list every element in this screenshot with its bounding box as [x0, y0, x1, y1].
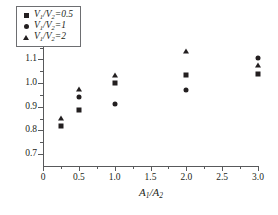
- x-tick-label: 2.5: [216, 173, 228, 183]
- x-tick-major: [151, 166, 152, 171]
- y-tick-label: 0.8: [25, 126, 37, 136]
- x-tick-minor: [204, 166, 205, 169]
- x-tick-major: [222, 166, 223, 171]
- data-point-square: [76, 108, 81, 113]
- y-tick-major: [38, 130, 43, 131]
- data-point-square: [112, 81, 117, 86]
- x-axis-title-a1: A: [139, 186, 146, 198]
- x-tick-minor: [168, 166, 169, 169]
- data-point-square: [58, 124, 63, 129]
- x-tick-minor: [240, 166, 241, 169]
- y-tick-major: [38, 107, 43, 108]
- legend-marker-square-icon: [22, 13, 30, 18]
- data-point-square: [184, 72, 189, 77]
- x-tick-minor: [61, 166, 62, 169]
- y-tick-label: 0.9: [25, 102, 37, 112]
- data-point-triangle: [112, 73, 118, 78]
- data-point-triangle: [183, 49, 189, 54]
- y-tick-minor: [40, 48, 43, 49]
- y-tick-label: 1.1: [25, 55, 37, 65]
- y-tick-minor: [40, 71, 43, 72]
- data-point-triangle: [58, 116, 64, 121]
- x-tick-label: 1.0: [109, 173, 121, 183]
- x-tick-major: [43, 166, 44, 171]
- x-axis-title: A1/A2: [43, 186, 259, 200]
- scatter-chart-figure: σcp,1/σcp,n A1/A2 0.70.80.91.01.11.21.3 …: [0, 0, 278, 215]
- x-tick-major: [115, 166, 116, 171]
- legend-v2: /V: [43, 31, 51, 41]
- legend-v2: /V: [43, 20, 51, 30]
- x-axis-title-a2: /A: [149, 186, 159, 198]
- legend-value: =2: [55, 31, 66, 41]
- x-tick-label: 0: [41, 173, 46, 183]
- y-tick-minor: [40, 119, 43, 120]
- y-tick-minor: [40, 142, 43, 143]
- data-point-circle: [256, 55, 261, 60]
- data-point-square: [256, 71, 261, 76]
- legend-label: V1/V2=2: [34, 32, 66, 43]
- y-tick-label: 0.7: [25, 149, 37, 159]
- data-point-circle: [184, 87, 189, 92]
- x-tick-label: 3.0: [252, 173, 264, 183]
- data-point-circle: [76, 94, 81, 99]
- x-tick-major: [258, 166, 259, 171]
- legend-value: =1: [55, 20, 66, 30]
- y-tick-minor: [40, 95, 43, 96]
- x-tick-major: [186, 166, 187, 171]
- legend-marker-triangle-icon: [22, 35, 30, 40]
- y-tick-major: [38, 83, 43, 84]
- x-axis-title-sub2: 2: [159, 191, 163, 200]
- data-point-triangle: [255, 63, 261, 68]
- x-tick-minor: [133, 166, 134, 169]
- legend-item: V1/V2=2: [22, 32, 73, 43]
- legend-value: =0.5: [55, 9, 73, 19]
- data-point-triangle: [76, 87, 82, 92]
- x-tick-label: 0.5: [73, 173, 85, 183]
- x-tick-label: 2.0: [180, 173, 192, 183]
- x-tick-minor: [97, 166, 98, 169]
- legend: V1/V2=0.5V1/V2=1V1/V2=2: [16, 6, 81, 47]
- data-point-circle: [112, 102, 117, 107]
- y-tick-major: [38, 59, 43, 60]
- x-tick-major: [79, 166, 80, 171]
- legend-marker-circle-icon: [22, 24, 30, 29]
- y-tick-major: [38, 154, 43, 155]
- x-tick-label: 1.5: [145, 173, 157, 183]
- legend-v2: /V: [43, 9, 51, 19]
- y-tick-label: 1.0: [25, 78, 37, 88]
